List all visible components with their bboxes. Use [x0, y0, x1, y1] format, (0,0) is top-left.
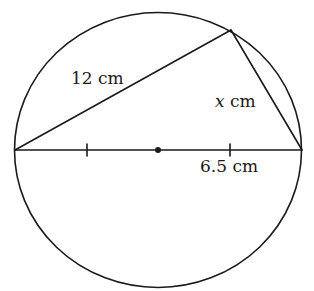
label-x-unit: cm [230, 91, 256, 111]
chord-12cm [15, 30, 231, 150]
label-x-cm: x cm [215, 91, 256, 111]
label-6-5cm-number: 6.5 [200, 156, 227, 176]
label-12cm: 12 cm [71, 68, 124, 88]
geometry-diagram: 12 cm x cm 6.5 cm [0, 0, 314, 291]
label-12cm-number: 12 [71, 68, 93, 88]
label-6-5cm-unit: cm [232, 156, 258, 176]
label-6-5cm: 6.5 cm [200, 156, 258, 176]
label-x-variable: x [215, 91, 225, 111]
center-point [155, 147, 161, 153]
label-12cm-unit: cm [98, 68, 124, 88]
chord-x-cm [231, 30, 302, 150]
